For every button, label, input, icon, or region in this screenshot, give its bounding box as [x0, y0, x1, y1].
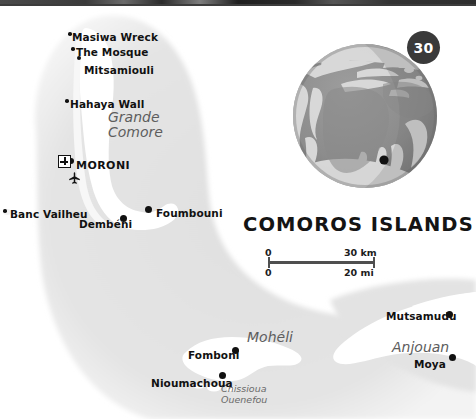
hospital-cross-horizontal	[60, 161, 68, 163]
place-label-moroni[interactable]: MORONI	[76, 160, 130, 171]
place-label-the-mosque[interactable]: The Mosque	[76, 47, 149, 58]
place-label-fomboni[interactable]: Fomboni	[188, 350, 239, 361]
comoros-islands-map: 30 COMOROS ISLANDS 0 30 km 0 20 mi Grand…	[0, 0, 476, 419]
place-label-moya[interactable]: Moya	[414, 359, 446, 370]
place-label-nioumachoua[interactable]: Nioumachoua	[151, 378, 233, 389]
place-marker-mitsamiouli[interactable]	[77, 56, 81, 60]
place-label-banc-vailheu[interactable]: Banc Vailheu	[10, 209, 88, 220]
place-marker-foumbouni[interactable]	[145, 206, 152, 213]
airplane-glyph	[68, 172, 81, 185]
place-marker-moya[interactable]	[449, 354, 456, 361]
map-annotation-layer: GrandeComoreMohéliAnjouanChissiouaOuenef…	[0, 0, 476, 419]
place-marker-hahaya-wall[interactable]	[65, 99, 69, 103]
island-label-line1: Mohéli	[247, 330, 293, 345]
island-label-grande-comore: GrandeComore	[108, 110, 163, 139]
island-label-line2: Comore	[108, 125, 163, 140]
place-label-mitsamiouli[interactable]: Mitsamiouli	[84, 65, 154, 76]
place-label-foumbouni[interactable]: Foumbouni	[156, 208, 223, 219]
island-label-line1: Anjouan	[392, 340, 449, 355]
place-label-hahaya-wall[interactable]: Hahaya Wall	[70, 99, 144, 110]
island-label-line2: Ouenefou	[221, 395, 267, 406]
island-label-anjouan: Anjouan	[392, 340, 449, 355]
place-marker-banc-vailheu[interactable]	[3, 209, 7, 213]
island-label-line1: Grande	[108, 110, 163, 125]
place-label-mutsamudu[interactable]: Mutsamudu	[386, 311, 457, 322]
place-marker-the-mosque[interactable]	[71, 47, 75, 51]
place-label-masiwa-wreck[interactable]: Masiwa Wreck	[72, 32, 158, 43]
airport-icon	[68, 170, 81, 189]
island-label-moheli: Mohéli	[247, 330, 293, 345]
hospital-icon	[58, 155, 71, 168]
place-label-dembeni[interactable]: Dembéni	[79, 219, 132, 230]
